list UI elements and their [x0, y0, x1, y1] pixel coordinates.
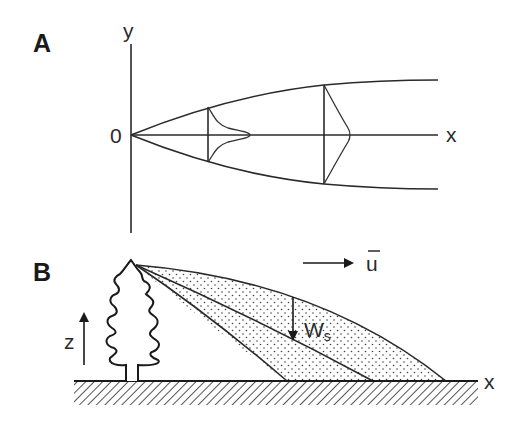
x-axis-label-b: x [484, 370, 495, 393]
y-axis-label: y [123, 19, 134, 42]
panel-b-label: B [33, 258, 51, 286]
origin-label: 0 [110, 124, 122, 147]
z-axis-label: z [64, 330, 75, 353]
plume-lower-boundary [131, 135, 438, 189]
wind-label: u [366, 252, 378, 275]
x-axis-label: x [446, 123, 457, 146]
figure: A y x 0 B x z [0, 0, 515, 433]
particle-plume [136, 265, 446, 381]
panel-a: A y x 0 [33, 19, 457, 233]
panel-b: B x z u Ws [33, 251, 495, 405]
ground-hatching [74, 381, 478, 405]
panel-a-label: A [33, 29, 51, 57]
plume-upper-boundary [131, 80, 438, 135]
tree-icon [107, 260, 159, 381]
